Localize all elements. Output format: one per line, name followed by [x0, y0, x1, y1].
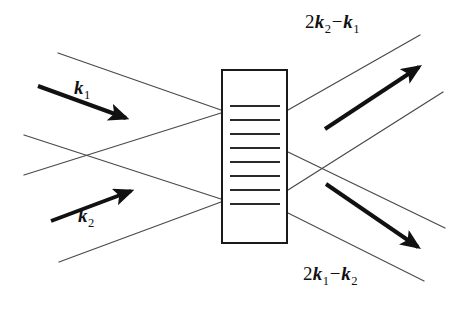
label-out-bottom-coefficient: 2	[303, 263, 313, 284]
label-input-beam-2: k2	[78, 206, 95, 225]
grating-sample	[222, 70, 287, 243]
arrow-out-bottom	[326, 184, 418, 247]
label-out-top-coefficient: 2	[305, 11, 315, 32]
label-out-top-subscript-b: 1	[353, 22, 360, 36]
label-output-beam-bottom: 2k1−k2	[303, 264, 358, 283]
label-out-top-vector-b: k	[343, 11, 353, 32]
label-out-bottom-subscript-b: 2	[351, 274, 358, 288]
label-out-bottom-operator: −	[329, 263, 341, 284]
label-input-beam-1: k1	[74, 78, 91, 97]
label-output-beam-top: 2k2−k1	[305, 12, 360, 31]
arrow-out-top	[325, 67, 419, 129]
outgoing-beam-envelope	[288, 35, 445, 281]
label-out-top-operator: −	[331, 11, 343, 32]
label-out-bottom-vector-b: k	[341, 263, 351, 284]
four-wave-mixing-figure: k1 k2 2k2−k1 2k1−k2	[0, 0, 462, 311]
beam-out-upper-top-line	[288, 35, 420, 110]
label-k1-subscript: 1	[84, 88, 91, 102]
label-k2-vector: k	[78, 205, 88, 226]
beam-out-lower-top-line	[288, 92, 443, 190]
beam-out-upper-bottom-line	[288, 152, 445, 228]
incoming-beam-envelope	[24, 53, 221, 262]
sample-cell-outline	[222, 70, 287, 243]
diagram-canvas	[0, 0, 462, 311]
label-out-top-vector-a: k	[315, 11, 325, 32]
label-out-bottom-vector-a: k	[313, 263, 323, 284]
label-k1-vector: k	[74, 77, 84, 98]
label-k2-subscript: 2	[88, 216, 95, 230]
